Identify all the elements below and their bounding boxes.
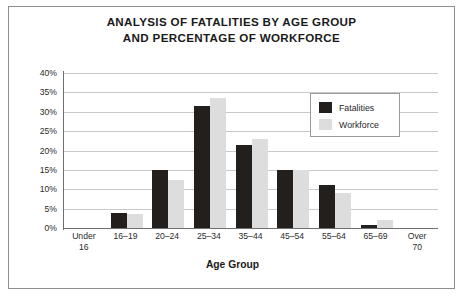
chart-title: ANALYSIS OF FATALITIES BY AGE GROUP AND … bbox=[9, 14, 454, 46]
bar-group bbox=[236, 73, 268, 228]
y-axis-tick-label: 10% bbox=[17, 184, 57, 194]
chart-title-line-1: ANALYSIS OF FATALITIES BY AGE GROUP bbox=[9, 14, 454, 30]
y-axis-tick-label: 40% bbox=[17, 68, 57, 78]
x-axis-title: Age Group bbox=[9, 259, 456, 270]
bar-fatalities bbox=[236, 145, 252, 228]
chart-legend: Fatalities Workforce bbox=[310, 93, 400, 137]
chart-title-line-2: AND PERCENTAGE OF WORKFORCE bbox=[9, 30, 454, 46]
legend-label-fatalities: Fatalities bbox=[339, 103, 374, 113]
y-axis-tick-label: 15% bbox=[17, 165, 57, 175]
legend-label-workforce: Workforce bbox=[339, 120, 379, 130]
bar-fatalities bbox=[111, 213, 127, 229]
bar-fatalities bbox=[361, 225, 377, 228]
bar-workforce bbox=[293, 170, 309, 228]
legend-item-fatalities: Fatalities bbox=[319, 101, 374, 114]
x-axis-line bbox=[63, 228, 438, 229]
y-axis-tick-label: 20% bbox=[17, 146, 57, 156]
legend-item-workforce: Workforce bbox=[319, 118, 379, 131]
bar-workforce bbox=[168, 180, 184, 228]
y-axis-tick-label: 25% bbox=[17, 126, 57, 136]
bar-fatalities bbox=[277, 170, 293, 228]
y-axis-tick-label: 30% bbox=[17, 107, 57, 117]
chart-figure: ANALYSIS OF FATALITIES BY AGE GROUP AND … bbox=[8, 6, 455, 289]
bar-workforce bbox=[335, 193, 351, 228]
y-axis-tick-label: 35% bbox=[17, 87, 57, 97]
bar-workforce bbox=[377, 220, 393, 228]
x-axis-label: Over70 bbox=[389, 231, 445, 252]
bar-group bbox=[402, 73, 434, 228]
bar-group bbox=[152, 73, 184, 228]
legend-swatch-fatalities bbox=[319, 102, 332, 113]
bar-workforce bbox=[252, 139, 268, 228]
y-axis-tick-label: 0% bbox=[17, 223, 57, 233]
y-axis-tick-label: 5% bbox=[17, 204, 57, 214]
bar-fatalities bbox=[319, 185, 335, 228]
bar-fatalities bbox=[152, 170, 168, 228]
bar-workforce bbox=[210, 98, 226, 228]
bar-fatalities bbox=[194, 106, 210, 228]
legend-swatch-workforce bbox=[319, 119, 332, 130]
y-axis-line bbox=[63, 71, 64, 230]
bar-workforce bbox=[127, 214, 143, 228]
bar-group bbox=[194, 73, 226, 228]
bar-group bbox=[111, 73, 143, 228]
bar-group bbox=[69, 73, 101, 228]
bar-group bbox=[277, 73, 309, 228]
